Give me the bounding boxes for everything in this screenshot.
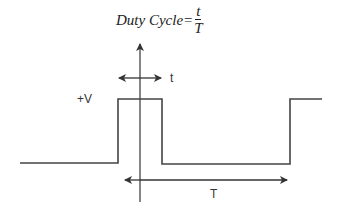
period-label: T	[210, 187, 217, 201]
square-wave	[20, 99, 322, 164]
pulse-width-label: t	[170, 71, 173, 85]
voltage-label: +V	[77, 92, 92, 106]
pwm-waveform-diagram	[0, 0, 338, 213]
